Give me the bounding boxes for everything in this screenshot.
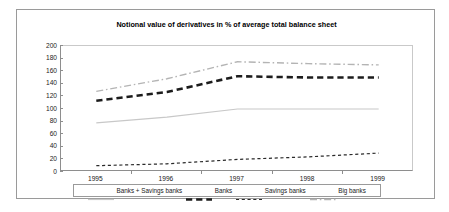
x-axis-tick-mark <box>201 171 202 174</box>
x-axis-tick-label: 1997 <box>229 175 244 182</box>
y-axis-tick-label: 20 <box>33 155 57 162</box>
legend-item-label: Banks <box>215 187 233 194</box>
series-line <box>96 109 378 123</box>
chart-figure: Notional value of derivatives in % of av… <box>16 9 435 199</box>
y-axis-tick-mark <box>60 158 63 159</box>
y-axis-tick-label: 100 <box>33 105 57 112</box>
y-axis-tick-label: 60 <box>33 130 57 137</box>
y-axis-tick-mark <box>60 45 63 46</box>
y-axis-tick-label: 120 <box>33 92 57 99</box>
legend-item: Banks + Savings banks <box>88 187 182 194</box>
line-dashed-swatch <box>186 188 212 193</box>
legend-item: Big banks <box>310 187 366 194</box>
y-axis-tick-label: 180 <box>33 54 57 61</box>
y-axis-tick-mark <box>60 58 63 59</box>
y-axis-tick-label: 140 <box>33 79 57 86</box>
line-dashdot-swatch <box>310 188 336 193</box>
y-axis-tick-label: 40 <box>33 142 57 149</box>
y-axis-tick-mark <box>60 108 63 109</box>
legend-item-label: Savings banks <box>265 187 306 194</box>
chart-title: Notional value of derivatives in % of av… <box>17 20 436 29</box>
x-axis-tick-label: 1995 <box>88 175 103 182</box>
plot-area <box>60 45 413 171</box>
x-axis-tick-label: 1996 <box>159 175 174 182</box>
y-axis-tick-label: 160 <box>33 67 57 74</box>
series-line <box>96 153 378 166</box>
chart-legend: Banks + Savings banksBanksSavings banksB… <box>73 184 381 197</box>
x-axis-tick-mark <box>131 171 132 174</box>
x-axis-tick-mark <box>342 171 343 174</box>
x-axis-tick-label: 1999 <box>370 175 385 182</box>
y-axis-tick-label: 80 <box>33 117 57 124</box>
series-lines <box>61 46 414 172</box>
y-axis-tick-mark <box>60 146 63 147</box>
y-axis-tick-mark <box>60 95 63 96</box>
y-axis-tick-mark <box>60 171 63 172</box>
y-axis-tick-label: 0 <box>33 168 57 175</box>
legend-item-label: Banks + Savings banks <box>117 187 183 194</box>
y-axis-tick-mark <box>60 121 63 122</box>
x-axis-tick-mark <box>272 171 273 174</box>
y-axis-tick-mark <box>60 133 63 134</box>
series-line <box>96 76 378 101</box>
legend-item-label: Big banks <box>338 187 366 194</box>
legend-item: Banks <box>186 187 232 194</box>
x-axis-tick-label: 1998 <box>300 175 315 182</box>
y-axis-tick-mark <box>60 70 63 71</box>
y-axis-tick-label: 200 <box>33 42 57 49</box>
line-solid-swatch <box>88 188 114 193</box>
legend-item: Savings banks <box>236 187 305 194</box>
line-dotted-swatch <box>236 188 262 193</box>
y-axis-tick-mark <box>60 83 63 84</box>
y-axis-labels: 200180160140120100806040200 <box>31 45 57 171</box>
